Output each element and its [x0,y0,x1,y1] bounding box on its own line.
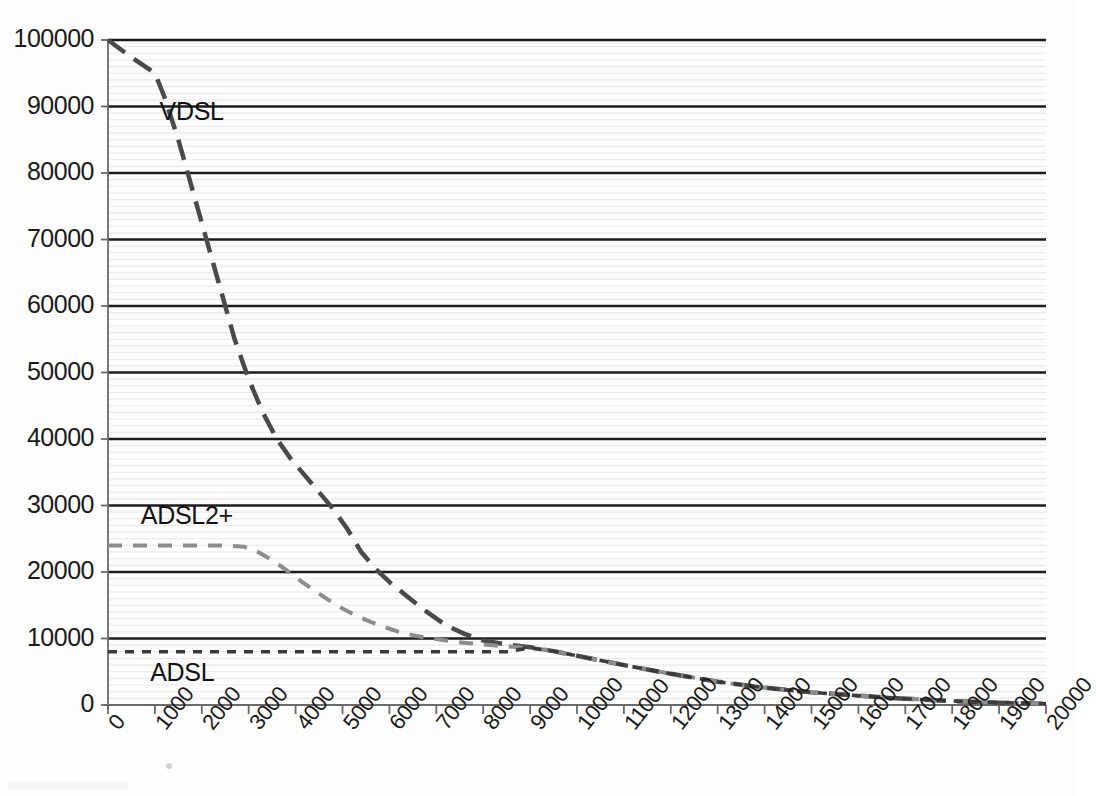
y-tick-label: 60000 [27,290,94,319]
y-tick-label: 100000 [14,24,94,53]
series-line-adsl2plus [108,545,1046,703]
y-tick-label: 40000 [27,423,94,452]
scan-artifact-speck [166,763,172,769]
y-tick-label: 90000 [27,91,94,120]
series-label-vdsl: VDSL [160,97,224,126]
y-tick-label: 10000 [27,623,94,652]
series-label-adsl2plus: ADSL2+ [141,501,233,530]
y-tick-label: 30000 [27,490,94,519]
y-tick-label: 20000 [27,556,94,585]
y-tick-label: 0 [81,689,94,718]
scan-artifact-smudge [8,782,128,789]
y-tick-label: 80000 [27,157,94,186]
y-tick-label: 70000 [27,224,94,253]
series-label-adsl: ADSL [150,658,214,687]
y-tick-label: 50000 [27,357,94,386]
